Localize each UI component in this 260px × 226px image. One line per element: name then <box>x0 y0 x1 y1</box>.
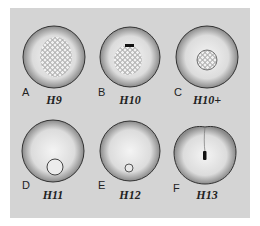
blastopore-ring <box>125 164 133 172</box>
panel-f: F H13 <box>173 126 236 202</box>
stage-label: H10+ <box>192 93 221 107</box>
panel-letter: F <box>173 182 180 194</box>
stage-label: H11 <box>42 188 64 202</box>
panel-a: A H9 <box>22 26 85 107</box>
cellular-patch <box>197 50 217 70</box>
stage-label: H13 <box>195 188 217 202</box>
panel-c: C H10+ <box>174 26 238 107</box>
dorsal-lip-groove <box>125 44 134 47</box>
panel-letter: C <box>174 86 182 98</box>
panel-d: D H11 <box>22 120 84 202</box>
panel-letter: A <box>22 86 30 98</box>
cellular-patch <box>114 45 142 75</box>
embryo-stages-figure: A H9 B H10 C H10+ D H11 E H12 F H13 <box>0 0 260 226</box>
stage-label: H9 <box>45 93 61 107</box>
stage-label: H10 <box>118 93 140 107</box>
panel-letter: D <box>22 179 30 191</box>
panel-b: B H10 <box>98 27 160 107</box>
panel-e: E H12 <box>98 121 160 202</box>
cellular-patch <box>40 37 72 77</box>
panel-letter: B <box>98 86 105 98</box>
neural-streak <box>203 151 207 160</box>
blastopore-ring <box>47 159 63 175</box>
stage-label: H12 <box>118 188 140 202</box>
panel-letter: E <box>98 179 105 191</box>
